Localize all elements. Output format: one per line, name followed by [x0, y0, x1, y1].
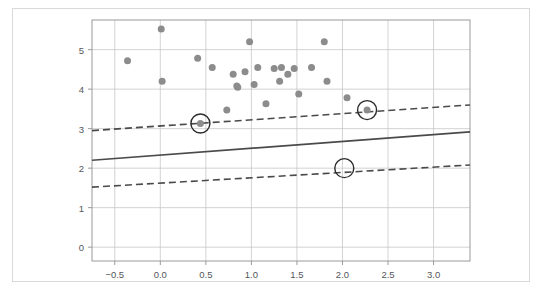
x-axis-tick-label: 1.5 [290, 269, 303, 280]
data-point [291, 65, 298, 72]
data-point [344, 94, 351, 101]
y-axis-tick-label: 5 [64, 44, 84, 55]
data-point [124, 57, 131, 64]
y-axis-tick-label: 1 [64, 202, 84, 213]
y-axis-tick-label: 4 [64, 84, 84, 95]
x-axis-tick-label: 0.0 [154, 269, 167, 280]
x-axis-tick-label: 2.5 [381, 269, 394, 280]
highlight-markers [191, 101, 377, 178]
data-point [242, 68, 249, 75]
data-point [234, 84, 241, 91]
data-point [321, 38, 328, 45]
data-point [223, 107, 230, 114]
x-axis-tick-label: 1.0 [245, 269, 258, 280]
data-point [254, 64, 261, 71]
data-point [158, 26, 165, 33]
grid-lines [92, 20, 470, 261]
x-axis-tick-label: 3.0 [427, 269, 440, 280]
data-point [246, 38, 253, 45]
data-point [251, 81, 258, 88]
x-axis-tick-label: 0.5 [199, 269, 212, 280]
scatter-points [124, 26, 371, 127]
data-point [308, 64, 315, 71]
data-point [230, 71, 237, 78]
chart-figure: −0.50.00.51.01.52.02.53.0012345 [0, 0, 542, 292]
data-point [209, 64, 216, 71]
y-axis-tick-label: 0 [64, 242, 84, 253]
data-point [278, 64, 285, 71]
x-axis-tick-label: −0.5 [105, 269, 124, 280]
y-axis-tick-label: 2 [64, 163, 84, 174]
upper-bound [92, 105, 470, 131]
y-axis-tick-label: 3 [64, 123, 84, 134]
data-point [194, 55, 201, 62]
data-point [262, 100, 269, 107]
axes-frame [92, 20, 470, 261]
data-point [197, 120, 204, 127]
data-point [364, 107, 371, 114]
data-point [295, 90, 302, 97]
data-point [284, 71, 291, 78]
plot-frame [92, 20, 470, 261]
x-axis-tick-label: 2.0 [336, 269, 349, 280]
data-point [271, 65, 278, 72]
data-point [276, 78, 283, 85]
regression-line [92, 132, 470, 160]
data-point [159, 78, 166, 85]
data-point [324, 78, 331, 85]
